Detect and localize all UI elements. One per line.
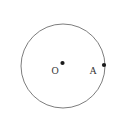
figure-canvas: O A: [0, 0, 115, 118]
center-point-label: O: [52, 65, 59, 76]
geometry-figure: O A: [0, 0, 115, 118]
center-point-dot: [60, 61, 64, 65]
point-a-label: A: [90, 65, 98, 76]
point-a-dot: [102, 63, 106, 67]
